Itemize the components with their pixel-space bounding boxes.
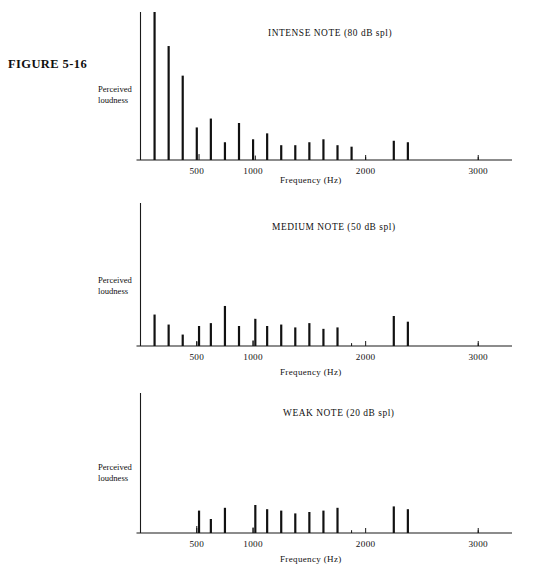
plot-area-medium: 500100020003000: [0, 195, 533, 385]
panel-intense-note: INTENSE NOTE (80 dB spl) Perceived loudn…: [0, 0, 533, 195]
x-axis-label-intense: Frequency (Hz): [280, 175, 342, 185]
x-axis-label-medium: Frequency (Hz): [280, 367, 342, 377]
plot-area-weak: 500100020003000: [0, 385, 533, 582]
x-axis-tick-label: 1000: [243, 166, 263, 176]
x-axis-tick-label: 500: [189, 539, 204, 549]
x-axis-tick-label: 2000: [356, 539, 376, 549]
x-axis-tick-label: 3000: [468, 539, 488, 549]
x-axis-label-weak: Frequency (Hz): [280, 554, 342, 564]
plot-area-intense: 500100020003000: [0, 0, 533, 195]
panel-medium-note: MEDIUM NOTE (50 dB spl) Perceived loudne…: [0, 195, 533, 385]
x-axis-tick-label: 2000: [356, 352, 376, 362]
x-axis-tick-label: 500: [189, 166, 204, 176]
x-axis-tick-label: 3000: [468, 166, 488, 176]
figure-root: FIGURE 5-16 INTENSE NOTE (80 dB spl) Per…: [0, 0, 533, 582]
x-axis-tick-label: 500: [189, 352, 204, 362]
x-axis-tick-label: 1000: [243, 352, 263, 362]
x-axis-tick-label: 2000: [356, 166, 376, 176]
x-axis-tick-label: 1000: [243, 539, 263, 549]
x-axis-tick-label: 3000: [468, 352, 488, 362]
panel-weak-note: WEAK NOTE (20 dB spl) Perceived loudness…: [0, 385, 533, 582]
